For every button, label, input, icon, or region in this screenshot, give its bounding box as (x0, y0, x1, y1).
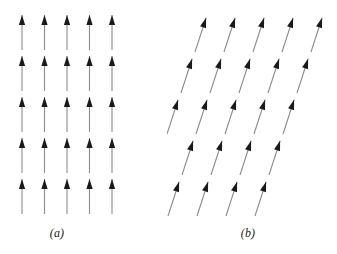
arrow-head (19, 179, 25, 189)
lattice-arrow-r5-c4 (226, 182, 237, 216)
panel-a-caption: (a) (0, 226, 142, 241)
arrow-head (41, 138, 47, 148)
lattice-arrow-r1-c1 (195, 18, 206, 52)
lattice-arrow-r1-c5 (311, 18, 322, 52)
lattice-arrow-r4-c2 (41, 138, 47, 173)
lattice-arrow-r3-c4 (254, 100, 265, 134)
arrow-head (260, 182, 266, 192)
lattice-arrow-r3-c3 (64, 97, 70, 132)
lattice-arrow-r3-c5 (109, 97, 115, 132)
arrow-head (200, 18, 206, 28)
arrow-head (86, 179, 92, 189)
lattice-arrow-r5-c3 (197, 182, 208, 216)
arrow-head (215, 59, 221, 69)
lattice-arrow-r3-c4 (86, 97, 92, 132)
arrow-head (41, 15, 47, 25)
arrow-head (41, 56, 47, 66)
arrow-head (173, 182, 179, 192)
lattice-arrow-r1-c5 (109, 15, 115, 50)
arrow-head (258, 18, 264, 28)
arrow-head (86, 97, 92, 107)
arrow-head (86, 56, 92, 66)
arrow-head (19, 97, 25, 107)
lattice-arrow-r5-c2 (168, 182, 179, 216)
lattice-arrow-r1-c2 (41, 15, 47, 50)
arrow-head (245, 141, 251, 151)
arrow-head (172, 100, 178, 110)
arrow-head (187, 141, 193, 151)
lattice-arrow-r4-c3 (211, 141, 222, 175)
lattice-arrow-r4-c5 (109, 138, 115, 173)
lattice-arrow-r2-c5 (109, 56, 115, 91)
arrow-head (64, 179, 70, 189)
lattice-arrow-r2-c4 (86, 56, 92, 91)
arrow-head (274, 141, 280, 151)
lattice-arrow-r3-c1 (167, 100, 178, 134)
lattice-arrow-r3-c2 (41, 97, 47, 132)
lattice-arrow-r3-c3 (225, 100, 236, 134)
vertical-lattice-diagram (0, 0, 170, 220)
lattice-arrow-r4-c1 (19, 138, 25, 173)
lattice-arrow-r4-c2 (182, 141, 193, 175)
lattice-arrow-r1-c3 (64, 15, 70, 50)
sheared-lattice-diagram (167, 0, 337, 220)
spin-lattice-figure: (a) (b) (0, 0, 337, 254)
arrow-head (19, 138, 25, 148)
lattice-arrow-r4-c5 (269, 141, 280, 175)
arrow-head (259, 100, 265, 110)
arrow-head (41, 179, 47, 189)
lattice-arrow-r2-c5 (297, 59, 308, 93)
lattice-arrow-r5-c1 (19, 179, 25, 214)
lattice-arrow-r1-c3 (253, 18, 264, 52)
arrow-head (202, 182, 208, 192)
lattice-arrow-r2-c4 (268, 59, 279, 93)
arrow-head (231, 182, 237, 192)
lattice-arrow-r4-c4 (240, 141, 251, 175)
panel-b-caption: (b) (163, 226, 333, 241)
arrow-head (273, 59, 279, 69)
lattice-arrow-r5-c4 (86, 179, 92, 214)
lattice-arrow-r2-c2 (41, 56, 47, 91)
arrow-head (244, 59, 250, 69)
arrow-head (64, 97, 70, 107)
arrow-head (109, 15, 115, 25)
arrow-head (86, 15, 92, 25)
panel-a: (a) (0, 0, 170, 254)
arrow-head (19, 15, 25, 25)
lattice-arrow-r2-c1 (19, 56, 25, 91)
lattice-arrow-r3-c2 (196, 100, 207, 134)
arrow-head (229, 18, 235, 28)
lattice-arrow-r2-c3 (239, 59, 250, 93)
lattice-arrow-r1-c4 (86, 15, 92, 50)
arrow-head (41, 97, 47, 107)
lattice-arrow-r5-c2 (41, 179, 47, 214)
lattice-arrow-r1-c2 (224, 18, 235, 52)
arrow-head (109, 97, 115, 107)
arrow-head (64, 138, 70, 148)
lattice-arrow-r1-c4 (282, 18, 293, 52)
lattice-arrow-r3-c5 (283, 100, 294, 134)
arrow-head (201, 100, 207, 110)
lattice-arrow-r4-c4 (86, 138, 92, 173)
arrow-head (19, 56, 25, 66)
arrow-head (64, 56, 70, 66)
lattice-arrow-r5-c5 (109, 179, 115, 214)
lattice-arrow-r1-c1 (19, 15, 25, 50)
lattice-arrow-r2-c2 (210, 59, 221, 93)
lattice-arrow-r5-c5 (255, 182, 266, 216)
arrow-head (230, 100, 236, 110)
lattice-arrow-r2-c3 (64, 56, 70, 91)
lattice-arrow-r2-c1 (181, 59, 192, 93)
panel-b: (b) (167, 0, 337, 254)
arrow-head (216, 141, 222, 151)
arrow-head (288, 100, 294, 110)
arrow-head (109, 138, 115, 148)
lattice-arrow-r5-c3 (64, 179, 70, 214)
arrow-head (64, 15, 70, 25)
arrow-head (302, 59, 308, 69)
arrow-head (86, 138, 92, 148)
arrow-head (186, 59, 192, 69)
arrow-head (316, 18, 322, 28)
lattice-arrow-r4-c3 (64, 138, 70, 173)
arrow-head (287, 18, 293, 28)
